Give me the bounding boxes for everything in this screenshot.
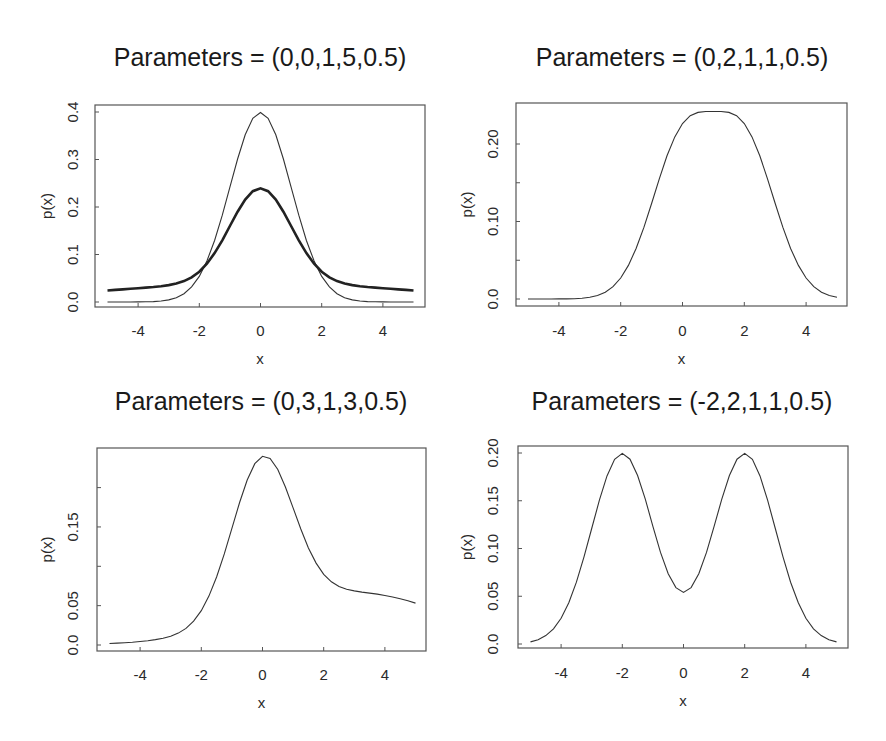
x-axis-label: x bbox=[678, 350, 686, 367]
y-tick-label: 0.10 bbox=[484, 207, 501, 236]
density-curve-density bbox=[110, 456, 416, 643]
density-curve-density bbox=[528, 112, 837, 300]
x-tick-label: 2 bbox=[741, 664, 749, 681]
y-tick-label: 0.15 bbox=[484, 486, 501, 515]
y-tick-label: 0.0 bbox=[484, 289, 501, 310]
plot-frame bbox=[518, 446, 848, 648]
panel-top-right: Parameters = (0,2,1,1,0.5)-4-20240.00.10… bbox=[458, 43, 847, 367]
y-tick-label: 0.0 bbox=[64, 292, 81, 313]
panel-bottom-left: Parameters = (0,3,1,3,0.5)-4-20240.00.05… bbox=[38, 387, 426, 711]
y-tick-label: 0.0 bbox=[64, 635, 81, 656]
plot-frame bbox=[516, 103, 847, 306]
density-curve-thick bbox=[108, 188, 414, 290]
y-tick-label: 0.2 bbox=[64, 197, 81, 218]
y-tick-label: 0.10 bbox=[484, 534, 501, 563]
x-tick-label: -2 bbox=[195, 666, 208, 683]
x-tick-label: 2 bbox=[740, 322, 748, 339]
x-tick-label: 4 bbox=[379, 322, 387, 339]
x-tick-label: 4 bbox=[802, 322, 810, 339]
x-axis-label: x bbox=[679, 692, 687, 709]
y-axis-label: p(x) bbox=[38, 537, 55, 563]
x-tick-label: -4 bbox=[552, 322, 565, 339]
x-tick-label: 0 bbox=[679, 664, 687, 681]
x-tick-label: -2 bbox=[614, 322, 627, 339]
panel-top-left: Parameters = (0,0,1,5,0.5)-4-20240.00.10… bbox=[38, 43, 425, 367]
x-tick-label: -4 bbox=[131, 322, 144, 339]
x-tick-label: 0 bbox=[258, 666, 266, 683]
x-tick-label: -4 bbox=[133, 666, 146, 683]
x-axis-label: x bbox=[258, 694, 266, 711]
y-tick-label: 0.20 bbox=[484, 129, 501, 158]
y-tick-label: 0.20 bbox=[484, 438, 501, 467]
chart-title: Parameters = (-2,2,1,1,0.5) bbox=[532, 387, 833, 415]
x-tick-label: 4 bbox=[802, 664, 810, 681]
x-axis-label: x bbox=[256, 350, 264, 367]
y-tick-label: 0.3 bbox=[64, 149, 81, 170]
chart-title: Parameters = (0,3,1,3,0.5) bbox=[115, 387, 408, 415]
y-tick-label: 0.05 bbox=[64, 591, 81, 620]
x-tick-label: 4 bbox=[381, 666, 389, 683]
x-tick-label: -4 bbox=[554, 664, 567, 681]
plot-frame bbox=[97, 448, 426, 651]
y-tick-label: 0.4 bbox=[64, 102, 81, 123]
y-tick-label: 0.05 bbox=[484, 582, 501, 611]
chart-title: Parameters = (0,0,1,5,0.5) bbox=[114, 43, 407, 71]
y-tick-label: 0.1 bbox=[64, 244, 81, 265]
figure: Parameters = (0,0,1,5,0.5)-4-20240.00.10… bbox=[0, 0, 886, 741]
chart-title: Parameters = (0,2,1,1,0.5) bbox=[536, 43, 829, 71]
y-tick-label: 0.15 bbox=[64, 512, 81, 541]
x-tick-label: -2 bbox=[193, 322, 206, 339]
density-curve-density bbox=[531, 453, 837, 642]
plot-frame bbox=[95, 105, 425, 307]
x-tick-label: 0 bbox=[256, 322, 264, 339]
y-axis-label: p(x) bbox=[458, 534, 475, 560]
x-tick-label: 2 bbox=[318, 322, 326, 339]
y-axis-label: p(x) bbox=[38, 193, 55, 219]
density-curve-thin bbox=[108, 113, 414, 303]
panel-bottom-right: Parameters = (-2,2,1,1,0.5)-4-20240.00.0… bbox=[458, 387, 848, 709]
y-tick-label: 0.0 bbox=[484, 634, 501, 655]
x-tick-label: 0 bbox=[678, 322, 686, 339]
y-axis-label: p(x) bbox=[458, 192, 475, 218]
x-tick-label: 2 bbox=[320, 666, 328, 683]
x-tick-label: -2 bbox=[616, 664, 629, 681]
